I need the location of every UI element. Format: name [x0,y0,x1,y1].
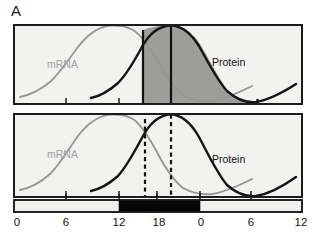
panel-label-a: A [11,2,21,19]
axis-label-18: 18 [153,216,166,228]
axis-label-0-mid: 0 [198,216,204,228]
axis-label-12-second: 12 [295,216,308,228]
protein-label-bottom: Protein [212,153,245,165]
axis-label-6-second: 6 [248,216,254,228]
axis-label-6-first: 6 [63,216,69,228]
axis-label-0-start: 0 [14,216,20,228]
top-panel: mRNA Protein [14,25,302,104]
axis-bar-night-segment [119,201,200,212]
axis-label-12-first: 12 [113,216,126,228]
figure-svg: mRNA Protein mR [0,0,316,235]
axis-tick-labels: 0 6 12 18 0 6 12 [14,216,308,228]
mrna-label-bottom: mRNA [47,148,78,160]
bottom-panel: mRNA Protein [14,114,302,197]
mrna-label-top: mRNA [47,58,78,70]
figure-container: A [0,0,316,235]
protein-label-top: Protein [212,56,245,68]
